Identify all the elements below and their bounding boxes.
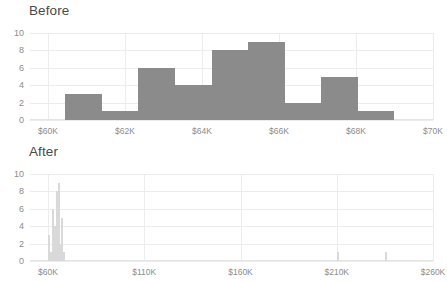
gridline-vertical [48, 33, 49, 120]
y-axis-tick-label: 10 [14, 29, 24, 38]
panel-title-before: Before [29, 3, 69, 19]
x-axis-tick-label: $64K [192, 126, 212, 136]
gridline-vertical [241, 174, 242, 261]
histogram-bar [63, 252, 65, 261]
y-axis-tick-label: 4 [19, 222, 24, 231]
gridline-vertical [144, 174, 145, 261]
x-axis-tick-label: $68K [346, 126, 366, 136]
y-axis-tick-label: 2 [19, 239, 24, 248]
y-axis-tick-label: 0 [19, 257, 24, 266]
x-axis-tick-label: $110K [132, 267, 156, 277]
gridline-vertical [337, 174, 338, 261]
x-axis-tick-label: $60K [38, 267, 58, 277]
gridline-horizontal [30, 33, 433, 34]
histogram-bar [102, 111, 139, 120]
histogram-bar [212, 50, 249, 120]
y-axis-tick-label: 0 [19, 116, 24, 125]
x-axis-tick-label: $260K [421, 267, 446, 277]
x-axis-tick-label: $66K [269, 126, 289, 136]
y-axis-tick-label: 8 [19, 187, 24, 196]
gridline-horizontal [30, 191, 433, 192]
x-axis-tick-label: $70K [423, 126, 443, 136]
salary-histogram-figure: { "figure": { "background": "#ffffff", "… [0, 0, 447, 282]
gridline-horizontal [30, 226, 433, 227]
y-axis-tick-label: 10 [14, 170, 24, 179]
panel-title-after: After [29, 144, 58, 160]
gridline-horizontal [30, 244, 433, 245]
plot-area-before: 0246810$60K$62K$64K$66K$68K$70K [30, 33, 433, 120]
histogram-bar [248, 42, 285, 120]
histogram-bar [65, 94, 102, 120]
gridline-vertical [433, 33, 434, 120]
panel-before: Before 0246810$60K$62K$64K$66K$68K$70K [0, 0, 447, 141]
histogram-bar [321, 77, 358, 121]
gridline-horizontal [30, 209, 433, 210]
plot-area-after: 0246810$60K$110K$160K$210K$260K [30, 174, 433, 261]
gridline-vertical [125, 33, 126, 120]
y-axis-tick-label: 6 [19, 204, 24, 213]
y-axis-tick-label: 4 [19, 81, 24, 90]
x-axis-tick-label: $210K [324, 267, 349, 277]
histogram-bar [175, 85, 212, 120]
gridline-horizontal [30, 174, 433, 175]
gridline-horizontal [30, 120, 433, 121]
y-axis-tick-label: 6 [19, 63, 24, 72]
axis-baseline [30, 260, 433, 261]
x-axis-tick-label: $62K [115, 126, 135, 136]
histogram-bar [358, 111, 395, 120]
y-axis-tick-label: 8 [19, 46, 24, 55]
histogram-bar [285, 103, 322, 120]
panel-after: After 0246810$60K$110K$160K$210K$260K [0, 141, 447, 282]
x-axis-tick-label: $60K [38, 126, 58, 136]
gridline-vertical [433, 174, 434, 261]
y-axis-tick-label: 2 [19, 98, 24, 107]
histogram-bar [337, 252, 339, 261]
gridline-horizontal [30, 261, 433, 262]
histogram-bar [138, 68, 175, 120]
x-axis-tick-label: $160K [228, 267, 253, 277]
histogram-bar [385, 252, 387, 261]
